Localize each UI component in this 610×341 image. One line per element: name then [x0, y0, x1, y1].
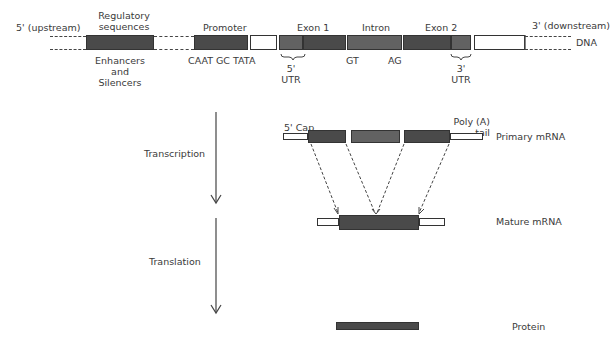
splicing-arrowheads-icon	[334, 207, 424, 214]
splicing-lines	[311, 144, 449, 213]
utr-brace-icons	[281, 54, 471, 60]
translation-arrow-icon	[211, 218, 221, 313]
transcription-arrow-icon	[211, 112, 221, 203]
